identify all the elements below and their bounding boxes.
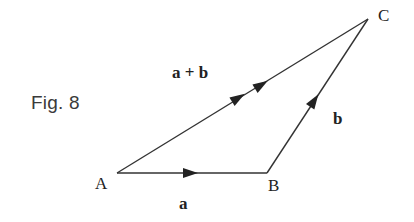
arrowhead-icon — [183, 168, 198, 178]
arrowhead-icon — [252, 77, 270, 93]
point-label-a: A — [95, 175, 107, 192]
arrowhead-icon — [229, 90, 247, 106]
point-label-c: C — [378, 7, 389, 24]
arrowhead-icon — [306, 92, 323, 110]
figure-caption: Fig. 8 — [31, 92, 80, 114]
vector-label-a: a — [179, 195, 188, 212]
vector-label-a-plus-b: a + b — [172, 64, 208, 81]
vector-label-b: b — [333, 110, 342, 127]
point-label-b: B — [268, 177, 279, 194]
